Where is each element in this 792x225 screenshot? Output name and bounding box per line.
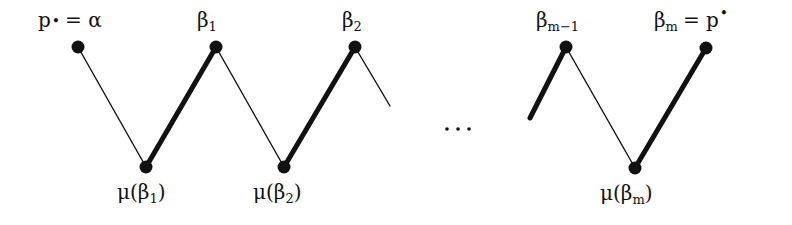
node-p-bullet-alpha — [72, 41, 85, 54]
node-mu-beta-1 — [140, 161, 153, 174]
label-p-bullet-alpha: p•= α — [38, 8, 102, 32]
edge-mu-beta1-to-beta1 — [146, 47, 216, 167]
label-beta-2: β2 — [342, 8, 362, 34]
edge-mu-beta-m-to-beta-m — [635, 48, 706, 168]
node-beta-2 — [349, 41, 362, 54]
ellipsis-dot — [467, 127, 471, 131]
edge-p-to-mu-beta1 — [78, 47, 146, 167]
node-mu-beta-m — [629, 162, 642, 175]
edge-beta-m-1-to-mu-beta-m — [566, 47, 635, 168]
edge-partial-to-beta-m-1 — [530, 47, 566, 118]
nodes — [72, 41, 713, 175]
edges — [78, 47, 706, 168]
node-beta-m — [700, 42, 713, 55]
ellipsis-dot — [456, 127, 460, 131]
label-beta-1: β1 — [197, 8, 217, 34]
ellipsis-dot — [445, 127, 449, 131]
label-mu-beta-2: μ(β2) — [253, 180, 301, 206]
label-mu-beta-1: μ(β1) — [117, 180, 165, 206]
label-mu-beta-m: μ(βm) — [600, 181, 653, 207]
ellipsis — [445, 127, 471, 131]
edge-beta2-partial — [355, 47, 390, 106]
node-beta-1 — [210, 41, 223, 54]
edge-beta1-to-mu-beta2 — [216, 47, 284, 167]
zigzag-path-diagram: p•= α β1 β2 βm−1 βm= p• μ(β1) μ(β2) μ(βm… — [0, 0, 792, 225]
edge-mu-beta2-to-beta2 — [284, 47, 355, 167]
node-mu-beta-2 — [278, 161, 291, 174]
node-beta-m-minus-1 — [560, 41, 573, 54]
label-beta-m-minus-1: βm−1 — [536, 8, 579, 34]
label-beta-m-eq-p-bullet: βm= p• — [654, 5, 728, 34]
